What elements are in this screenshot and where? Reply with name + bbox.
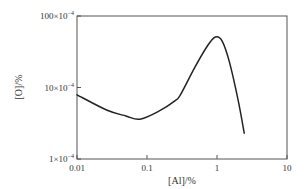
y-tick-label: 10×10−4	[45, 82, 74, 93]
y-axis-title: [O]/%	[13, 75, 24, 100]
y-tick-label: 100×10−4	[40, 10, 74, 21]
x-axis-title: [Al]/%	[168, 175, 196, 186]
chart: 0.010.1110 1×10−410×10−4100×10−4 [Al]/% …	[0, 0, 304, 189]
y-axis: 1×10−410×10−4100×10−4	[40, 10, 81, 164]
x-tick-label: 0.01	[69, 163, 85, 173]
x-tick-label: 10	[283, 163, 293, 173]
x-tick-label: 0.1	[141, 163, 152, 173]
plot-frame	[77, 16, 287, 159]
x-tick-label: 1	[215, 163, 220, 173]
series-group	[77, 37, 244, 134]
series-line	[77, 37, 244, 134]
x-axis: 0.010.1110	[69, 155, 292, 173]
